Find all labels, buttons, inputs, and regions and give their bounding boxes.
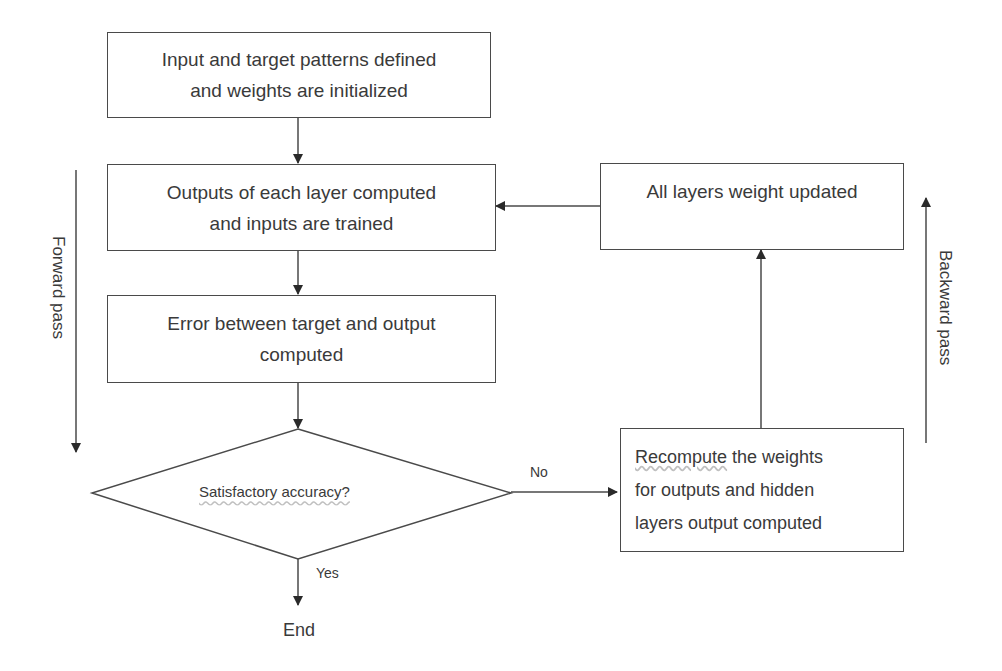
node-decision-text: Satisfactory accuracy? xyxy=(199,483,350,500)
node-update: All layers weight updated xyxy=(600,163,904,250)
node-error: Error between target and output computed xyxy=(107,295,496,383)
node-recompute-line-1: Recompute the weights xyxy=(635,441,823,474)
node-forward-line-2: and inputs are trained xyxy=(210,208,394,239)
node-init-line-1: Input and target patterns defined xyxy=(162,44,437,75)
node-init-line-2: and weights are initialized xyxy=(190,75,408,106)
edge-label-no: No xyxy=(530,464,548,480)
node-recompute: Recompute the weights for outputs and hi… xyxy=(620,428,904,552)
node-init: Input and target patterns defined and we… xyxy=(107,32,491,118)
recompute-rest: the weights xyxy=(727,447,823,467)
node-forward: Outputs of each layer computed and input… xyxy=(107,164,496,251)
node-error-line-2: computed xyxy=(260,339,343,370)
node-error-line-1: Error between target and output xyxy=(167,308,435,339)
node-recompute-line-2: for outputs and hidden xyxy=(635,474,814,507)
edge-label-yes: Yes xyxy=(316,565,339,581)
recompute-word: Recompute xyxy=(635,447,727,467)
forward-pass-label: Forward pass xyxy=(48,236,68,339)
node-forward-line-1: Outputs of each layer computed xyxy=(167,177,436,208)
node-end: End xyxy=(283,620,315,641)
backward-pass-label: Backward pass xyxy=(935,250,955,365)
node-recompute-line-3: layers output computed xyxy=(635,507,822,540)
node-update-line-1: All layers weight updated xyxy=(646,176,857,207)
